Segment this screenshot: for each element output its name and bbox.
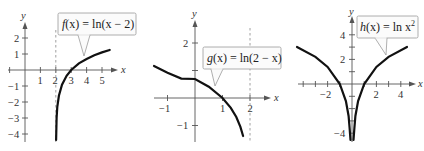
panel-g: x y −1 1 2 2 −1 g(x) = ln(2 − x): [154, 8, 282, 142]
x-tick-label: 5: [100, 75, 105, 86]
x-tick-label: 3: [69, 75, 74, 86]
x-tick-label: 1: [220, 103, 225, 114]
x-axis-label: x: [273, 92, 279, 103]
y-axis-arrow-icon: [23, 22, 28, 29]
x-axis-arrow-icon: [409, 82, 416, 87]
callout-pointer: [375, 38, 387, 55]
x-tick-label: 4: [398, 89, 404, 100]
y-tick-label: −3: [8, 113, 19, 124]
y-tick-label: 4: [340, 30, 346, 41]
x-tick-label: 4: [84, 75, 90, 86]
x-axis-label: x: [417, 78, 423, 89]
y-tick-label: −4: [334, 128, 346, 139]
x-axis-arrow-icon: [264, 96, 271, 101]
y-tick-label: −1: [8, 81, 19, 92]
y-tick-label: 1: [14, 49, 19, 60]
y-tick-label: −4: [8, 129, 20, 140]
callout-pointer: [211, 69, 223, 86]
y-tick-label: 2: [183, 38, 188, 49]
x-tick-label: −2: [320, 89, 331, 100]
y-axis-label: y: [348, 6, 354, 17]
curve-f: [56, 50, 110, 140]
x-axis-label: x: [120, 64, 126, 75]
function-label-h: h(x) = ln x2: [360, 19, 415, 34]
y-axis-arrow-icon: [193, 20, 198, 27]
y-tick-label: 2: [340, 54, 345, 65]
figure-canvas: x y 1 2 3 4 5 2 1 −1 −2 −3: [0, 0, 424, 151]
y-tick-label: −1: [177, 120, 188, 131]
y-axis-arrow-icon: [350, 16, 355, 23]
x-tick-label: 2: [53, 75, 58, 86]
y-axis-label: y: [191, 8, 197, 19]
x-tick-label: 2: [374, 89, 379, 100]
callout-pointer: [78, 35, 90, 56]
function-label-f: f(x) = ln(x − 2): [62, 17, 134, 31]
panel-h: x y −2 2 4 4 2 −4: [297, 6, 423, 142]
y-axis-label: y: [20, 10, 26, 21]
x-tick-label: −1: [159, 103, 170, 114]
x-axis-arrow-icon: [111, 68, 118, 73]
function-label-g: g(x) = ln(2 − x): [207, 51, 282, 65]
y-tick-label: 2: [14, 33, 19, 44]
y-tick-label: −2: [8, 97, 19, 108]
x-tick-label: 1: [38, 75, 43, 86]
panel-f: x y 1 2 3 4 5 2 1 −1 −2 −3: [8, 10, 136, 142]
